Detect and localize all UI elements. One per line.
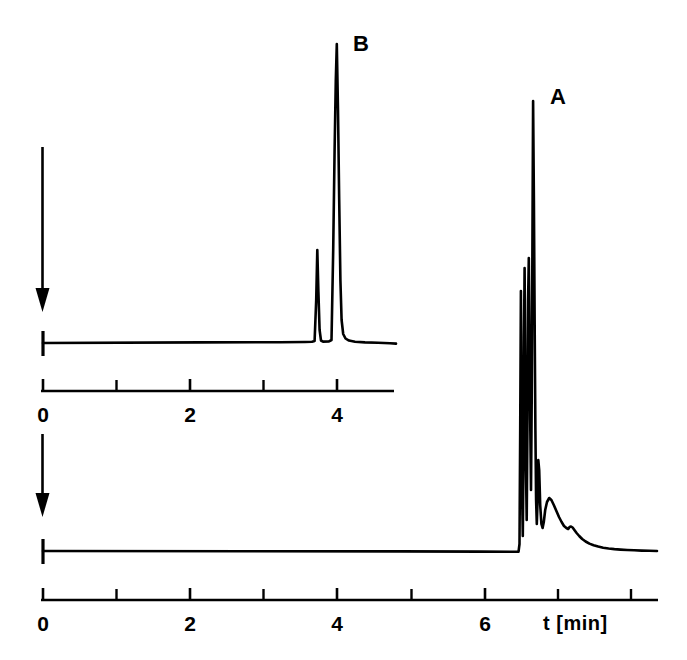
tick-label-a-4: 4 <box>331 613 343 634</box>
trace-a <box>43 101 657 552</box>
tick-label-a-0: 0 <box>37 613 49 634</box>
tick-label-a-6: 6 <box>479 613 491 634</box>
x-axis-a <box>41 588 658 600</box>
x-axis-title: t [min] <box>543 613 608 633</box>
tick-label-b-2: 2 <box>184 404 196 425</box>
chromatogram-figure: B A 0 2 4 0 2 4 6 t [min] <box>0 0 687 660</box>
panel-a <box>36 101 659 600</box>
tick-label-a-2: 2 <box>184 613 196 634</box>
trace-label-a: A <box>550 86 566 108</box>
tick-label-b-0: 0 <box>37 404 49 425</box>
tick-label-b-4: 4 <box>331 404 343 425</box>
chromatogram-plot <box>0 0 687 660</box>
trace-b <box>43 44 396 344</box>
x-axis-b <box>41 379 394 391</box>
injection-arrow-a-icon <box>36 434 50 517</box>
panel-b <box>36 44 397 391</box>
trace-label-b: B <box>353 33 369 55</box>
injection-arrow-b-icon <box>36 147 50 312</box>
